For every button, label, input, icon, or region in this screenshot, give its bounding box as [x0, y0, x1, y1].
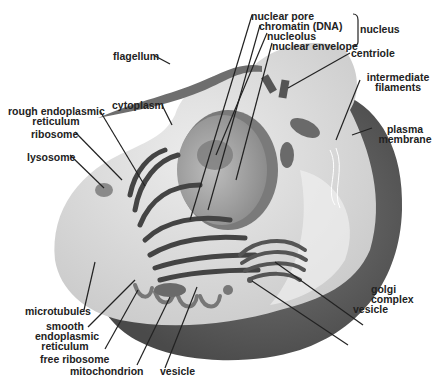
label-mitochondrion: mitochondrion	[70, 366, 144, 376]
label-centriole: centriole	[351, 48, 395, 58]
label-vesicle-right: vesicle	[353, 304, 388, 314]
nucleolus	[197, 140, 233, 170]
vesicle	[223, 285, 233, 295]
label-microtubules: microtubules	[25, 306, 91, 316]
label-cytoplasm: cytoplasm	[112, 100, 164, 110]
label-rough-er-2: reticulum	[8, 116, 104, 126]
label-nucleus: nucleus	[360, 24, 400, 34]
label-plasma-membrane-2: membrane	[374, 134, 436, 144]
label-intermediate-filaments-2: filaments	[360, 82, 436, 92]
cell-diagram: nuclear pore chromatin (DNA) nucleolus n…	[0, 0, 436, 380]
label-free-ribosome: free ribosome	[40, 354, 109, 364]
label-smooth-er-3: reticulum	[35, 341, 95, 351]
lysosome	[95, 183, 113, 197]
label-lysosome: lysosome	[27, 152, 75, 162]
label-ribosome: ribosome	[31, 129, 78, 139]
label-flagellum: flagellum	[113, 51, 159, 61]
label-vesicle-bottom: vesicle	[160, 366, 195, 376]
label-nuclear-envelope: nuclear envelope	[272, 41, 358, 51]
vesicle	[247, 277, 253, 283]
